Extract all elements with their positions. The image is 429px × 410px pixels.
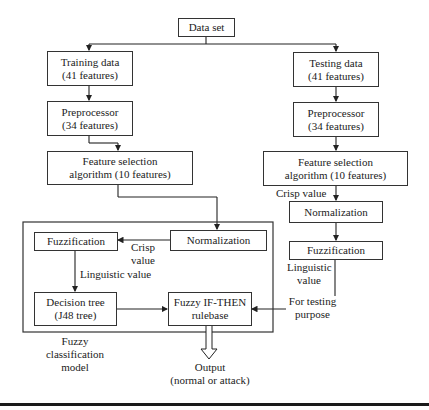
crisp-inner-line2: value — [128, 254, 158, 267]
model-line1: Fuzzy — [42, 335, 108, 348]
decision-tree-box: Decision tree (J48 tree) — [34, 292, 117, 326]
training-data-box: Training data (41 features) — [47, 51, 133, 86]
linguistic-value-right-label: Linguistic value — [287, 261, 331, 287]
testing-purpose-label: For testing purpose — [285, 295, 340, 321]
decision-tree-detail: (J48 tree) — [55, 309, 97, 322]
fuzzification-right-label: Fuzzification — [307, 244, 365, 257]
normalization-right-label: Normalization — [304, 206, 368, 219]
fuzzy-rulebase-box: Fuzzy IF-THEN rulebase — [168, 292, 252, 326]
normalization-inner-label: Normalization — [187, 234, 251, 247]
linguistic-right-line2: value — [287, 274, 331, 287]
crisp-inner-line1: Crisp — [128, 241, 158, 254]
bottom-divider — [0, 403, 429, 406]
feature-selection-right-title: Feature selection — [298, 156, 373, 169]
preprocessor-right-features: (34 features) — [308, 120, 364, 133]
training-data-features: (41 features) — [62, 69, 118, 82]
model-line2: classification — [42, 348, 108, 361]
training-data-title: Training data — [61, 56, 120, 69]
output-line1: Output — [164, 361, 256, 374]
normalization-right-box: Normalization — [289, 201, 383, 223]
testing-data-features: (41 features) — [308, 70, 364, 83]
dataset-label: Data set — [189, 21, 225, 34]
feature-selection-left-title: Feature selection — [83, 155, 158, 168]
testing-data-title: Testing data — [309, 57, 362, 70]
feature-selection-right-detail: algorithm (10 features) — [285, 169, 386, 182]
dataset-box: Data set — [178, 18, 235, 37]
fuzzification-inner-label: Fuzzification — [47, 235, 105, 248]
decision-tree-title: Decision tree — [46, 296, 104, 309]
preprocessor-right-box: Preprocessor (34 features) — [293, 102, 379, 137]
testing-data-box: Testing data (41 features) — [293, 52, 379, 87]
fuzzy-rulebase-detail: rulebase — [192, 309, 229, 322]
model-line3: model — [42, 361, 108, 374]
output-label: Output (normal or attack) — [164, 361, 256, 387]
fuzzification-inner-box: Fuzzification — [34, 232, 118, 251]
crisp-value-inner-label: Crisp value — [128, 241, 158, 267]
feature-selection-right-box: Feature selection algorithm (10 features… — [263, 151, 408, 186]
preprocessor-left-box: Preprocessor (34 features) — [47, 101, 133, 136]
output-line2: (normal or attack) — [164, 374, 256, 387]
linguistic-right-line1: Linguistic — [287, 261, 331, 274]
preprocessor-left-features: (34 features) — [62, 119, 118, 132]
normalization-inner-box: Normalization — [170, 230, 267, 251]
testing-purpose-line1: For testing — [285, 295, 340, 308]
preprocessor-left-title: Preprocessor — [62, 106, 119, 119]
feature-selection-left-detail: algorithm (10 features) — [69, 168, 170, 181]
testing-purpose-line2: purpose — [285, 308, 340, 321]
feature-selection-left-box: Feature selection algorithm (10 features… — [47, 151, 193, 185]
fuzzification-right-box: Fuzzification — [289, 241, 383, 260]
fuzzy-classification-model-label: Fuzzy classification model — [42, 335, 108, 374]
linguistic-value-inner-label: Linguistic value — [80, 268, 151, 281]
crisp-value-right-label: Crisp value — [276, 187, 326, 200]
fuzzy-rulebase-title: Fuzzy IF-THEN — [174, 296, 246, 309]
preprocessor-right-title: Preprocessor — [308, 107, 365, 120]
